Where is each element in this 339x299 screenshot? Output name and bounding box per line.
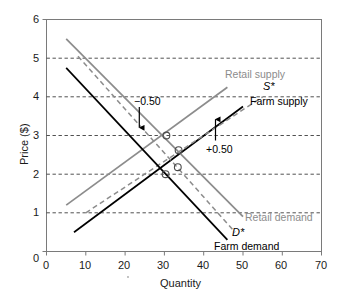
- curve-farm-demand: [66, 68, 227, 240]
- annotation-plus-half: +0.50: [206, 143, 233, 155]
- stray-dot: [127, 276, 129, 278]
- y-axis-title: Price ($): [18, 123, 30, 165]
- x-tick-60: 60: [275, 259, 287, 271]
- label-retail-demand: Retail demand: [245, 211, 313, 223]
- label-d-star: D*: [232, 226, 244, 238]
- y-tick-4: 4: [33, 90, 39, 102]
- y-tick-1: 1: [33, 206, 39, 218]
- curve-shifted-supply-s-star: [86, 97, 263, 213]
- x-axis-ticks: [47, 252, 322, 256]
- x-axis-title: Quantity: [160, 277, 201, 289]
- x-tick-0: 0: [43, 259, 49, 271]
- x-tick-40: 40: [197, 259, 209, 271]
- x-tick-30: 30: [157, 259, 169, 271]
- y-tick-6: 6: [33, 13, 39, 25]
- x-tick-10: 10: [79, 259, 91, 271]
- plot-canvas: [0, 0, 339, 299]
- y-tick-3: 3: [33, 129, 39, 141]
- annotation-minus-half: −0.50: [134, 95, 161, 107]
- y-tick-2: 2: [33, 168, 39, 180]
- x-tick-20: 20: [118, 259, 130, 271]
- label-farm-demand: Farm demand: [214, 240, 279, 252]
- marker-point: [174, 164, 181, 171]
- y-axis-ticks: [43, 20, 47, 252]
- y-tick-0: 0: [33, 252, 39, 264]
- label-retail-supply: Retail supply: [225, 68, 285, 80]
- label-s-star: S*: [263, 80, 275, 92]
- y-tick-5: 5: [33, 52, 39, 64]
- x-tick-50: 50: [236, 259, 248, 271]
- x-tick-70: 70: [315, 259, 327, 271]
- price-quantity-chart: 6 5 4 3 2 1 0 0 10 20 30 40 50 60 70 Pri…: [0, 0, 339, 299]
- label-farm-supply: Farm supply: [250, 95, 308, 107]
